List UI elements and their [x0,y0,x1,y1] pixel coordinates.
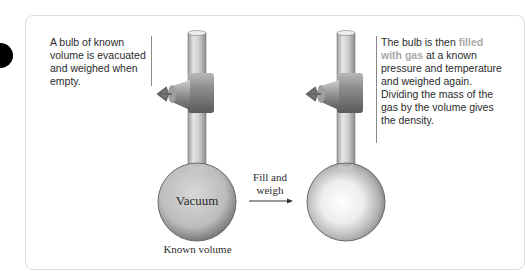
arrow-label-line1: Fill and [240,171,300,184]
gas-filled-bulb-apparatus [307,31,385,242]
arrow-label-line2: weigh [240,184,300,197]
vacuum-label: Vacuum [167,193,227,209]
caption-right-rule [376,36,377,143]
caption-left-rule [151,36,152,86]
fill-and-weigh-arrow [249,199,293,204]
fill-caption-start: The bulb is then [381,36,459,48]
evacuated-bulb-apparatus [158,31,236,242]
evacuate-caption: A bulb of known volume is evacuated and … [50,36,155,88]
fill-caption: The bulb is then filled with gas at a kn… [381,36,506,127]
known-volume-label: Known volume [150,243,245,255]
